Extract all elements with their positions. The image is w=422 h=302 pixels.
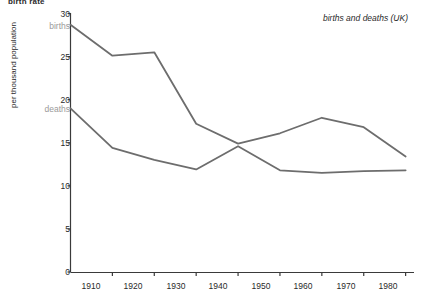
series-line-deaths <box>71 108 406 173</box>
series-line-births <box>71 25 406 157</box>
plot-area <box>0 0 422 302</box>
chart-figure: birth rate births and deaths (UK) per th… <box>0 0 422 302</box>
